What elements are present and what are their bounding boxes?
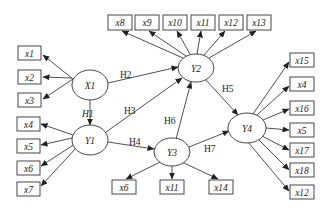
indicator-x8: x8 — [108, 15, 132, 30]
svg-text:X1: X1 — [84, 81, 96, 91]
svg-text:x18: x18 — [294, 166, 309, 176]
h4-label: H4 — [129, 137, 141, 147]
indicator-x18: x18 — [290, 163, 314, 177]
latent-x1: X1 — [72, 70, 108, 100]
latent-y1: Y1 — [72, 125, 108, 155]
indicator-x13: x13 — [247, 15, 271, 30]
svg-text:x2: x2 — [24, 73, 34, 83]
latent-y2: Y2 — [178, 54, 214, 82]
indicator-x9: x9 — [135, 15, 159, 30]
indicator-x15: x15 — [290, 53, 314, 67]
svg-text:x10: x10 — [167, 18, 182, 28]
indicator-x14: x14 — [209, 180, 233, 194]
indicator-x12-y4: x12 — [290, 185, 314, 199]
indicator-x1: x1 — [18, 46, 41, 60]
indicator-x4-y1: x4 — [17, 117, 40, 131]
svg-text:x5: x5 — [297, 126, 307, 136]
latent-y3: Y3 — [154, 138, 190, 166]
indicator-x17: x17 — [290, 143, 314, 157]
svg-text:x1: x1 — [24, 49, 34, 59]
svg-text:Y2: Y2 — [191, 64, 201, 74]
svg-text:x11: x11 — [164, 183, 178, 193]
svg-text:x6: x6 — [23, 164, 33, 174]
indicator-x10: x10 — [163, 15, 187, 30]
svg-text:x4: x4 — [23, 120, 33, 130]
y2-loadings — [122, 31, 256, 58]
h1-label: H1 — [81, 109, 94, 119]
svg-text:x15: x15 — [294, 56, 309, 66]
h6-label: H6 — [164, 116, 176, 126]
indicator-x11-y2: x11 — [191, 15, 215, 30]
indicator-x12-y2: x12 — [219, 15, 243, 30]
svg-text:x17: x17 — [294, 146, 310, 156]
svg-text:x12: x12 — [294, 188, 309, 198]
svg-text:x13: x13 — [251, 18, 266, 28]
svg-text:x3: x3 — [24, 96, 34, 106]
h5-label: H5 — [222, 84, 234, 94]
svg-text:x14: x14 — [213, 183, 228, 193]
y1-loadings — [41, 124, 77, 186]
h7-label: H7 — [204, 144, 216, 154]
h2-label: H2 — [120, 70, 132, 80]
svg-text:x5: x5 — [23, 142, 33, 152]
svg-text:x9: x9 — [142, 18, 152, 28]
indicator-x6-y3: x6 — [112, 180, 136, 194]
indicator-x7: x7 — [17, 182, 40, 196]
indicator-x11-y3: x11 — [160, 180, 184, 194]
indicator-x5-y4: x5 — [290, 123, 314, 137]
svg-text:Y1: Y1 — [85, 136, 95, 146]
svg-text:x8: x8 — [115, 18, 125, 28]
indicator-x2: x2 — [18, 70, 41, 84]
latent-y4: Y4 — [228, 113, 266, 143]
svg-text:x12: x12 — [223, 18, 238, 28]
indicator-x6-y1: x6 — [17, 161, 40, 175]
x1-loadings — [43, 55, 73, 99]
indicator-x3: x3 — [18, 93, 41, 107]
structural-paths — [90, 67, 238, 149]
svg-text:x7: x7 — [23, 185, 34, 195]
sem-diagram: H1 H2 H3 H4 H5 H6 H7 X1 Y1 Y2 Y3 Y4 x1 x… — [0, 0, 330, 212]
svg-text:x6: x6 — [119, 183, 129, 193]
svg-text:Y3: Y3 — [167, 148, 177, 158]
svg-text:x4: x4 — [297, 80, 307, 90]
indicator-x16: x16 — [290, 101, 314, 115]
svg-text:Y4: Y4 — [242, 124, 252, 134]
svg-text:x16: x16 — [294, 104, 309, 114]
indicator-x5-y1: x5 — [17, 139, 40, 153]
h3-label: H3 — [124, 106, 136, 116]
svg-text:x11: x11 — [195, 18, 209, 28]
indicator-x4-y4: x4 — [290, 77, 314, 91]
